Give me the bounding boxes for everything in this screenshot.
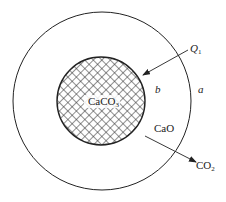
interface-region-label: b bbox=[155, 83, 161, 95]
gas-out-label: CO2 bbox=[196, 159, 215, 173]
particle-diagram: CaCO3 CaO b a Q1 CO2 bbox=[0, 0, 226, 202]
outer-region-label: a bbox=[198, 83, 204, 95]
shell-label: CaO bbox=[154, 122, 174, 134]
heat-in-arrow bbox=[143, 50, 188, 75]
heat-in-label: Q1 bbox=[190, 42, 202, 56]
core-label: CaCO3 bbox=[88, 95, 120, 109]
